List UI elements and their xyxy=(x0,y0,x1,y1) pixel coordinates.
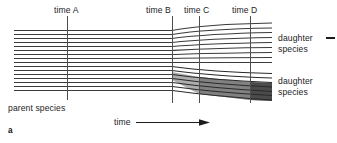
daughter-species-top-label-line2: species xyxy=(278,44,308,54)
daughter-species-top-label-line1: daughter xyxy=(278,33,313,43)
upper-daughter-lines xyxy=(172,23,272,63)
daughter-species-top-label: daughter species xyxy=(278,33,313,54)
time-marker-label-d: time D xyxy=(232,5,257,15)
time-marker-label-a: time A xyxy=(54,5,78,15)
parent-species-lines xyxy=(14,31,172,91)
dash-marker-icon xyxy=(326,37,335,39)
daughter-species-bottom-label-line2: species xyxy=(278,87,308,97)
lineage-diagram-svg xyxy=(0,0,337,143)
time-axis-arrow xyxy=(136,119,210,126)
speciation-figure: time A time B time C time D daughter spe… xyxy=(0,0,337,143)
daughter-species-bottom-label-line1: daughter xyxy=(278,76,313,86)
daughter-species-bottom-label: daughter species xyxy=(278,76,313,97)
time-axis-label: time xyxy=(114,117,131,127)
panel-letter: a xyxy=(8,126,13,135)
time-marker-label-c: time C xyxy=(184,5,209,15)
parent-species-label: parent species xyxy=(8,103,65,114)
time-marker-label-b: time B xyxy=(146,5,171,15)
